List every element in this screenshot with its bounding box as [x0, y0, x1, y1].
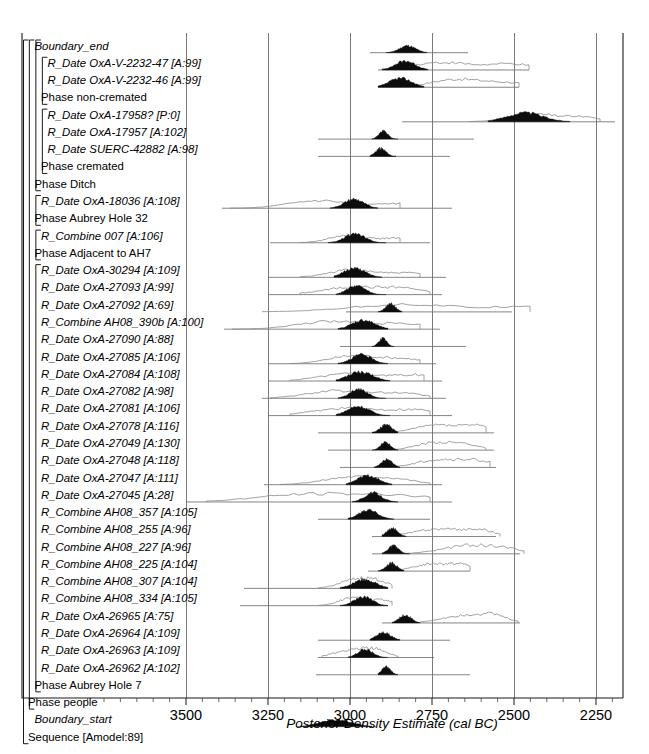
distribution-row [402, 112, 615, 122]
row-label: R_Date OxA-26962 [A:102] [41, 662, 181, 674]
distribution-row [318, 509, 430, 519]
tick-label-3250: 3250 [252, 707, 284, 723]
row-label: R_Date OxA-18036 [A:108] [41, 195, 181, 207]
row-label: R_Date OxA-27090 [A:88] [41, 333, 174, 345]
row-label: R_Date OxA-27082 [A:98] [41, 385, 174, 397]
distribution-row [240, 596, 392, 606]
distribution-row [222, 198, 452, 208]
row-label: R_Date OxA-27081 [A:106] [41, 402, 181, 414]
posterior-density [372, 337, 394, 346]
distribution-row [316, 666, 470, 675]
posterior-density [338, 388, 386, 398]
posterior-density [352, 492, 398, 502]
distribution-row [224, 319, 440, 329]
distribution-row [378, 77, 519, 87]
distribution-row [368, 562, 470, 571]
posterior-density [340, 596, 388, 606]
posterior-density [378, 77, 424, 87]
row-label: R_Date OxA-30294 [A:109] [41, 264, 181, 276]
row-label: R_Date OxA-26964 [A:109] [41, 627, 181, 639]
row-label: R_Date OxA-17957 [A:102] [48, 126, 188, 138]
distribution-row [318, 130, 474, 139]
prior-curve [230, 200, 400, 208]
distribution-row [268, 285, 442, 294]
posterior-density [386, 45, 427, 53]
posterior-density [330, 198, 378, 208]
row-label: R_Combine AH08_390b [A:100] [41, 316, 204, 328]
posterior-density [374, 458, 400, 467]
posterior-density [372, 130, 398, 139]
distribution-row [318, 147, 450, 156]
posterior-density [378, 666, 398, 675]
axis-title: Posterior Density Estimate (cal BC) [286, 716, 498, 731]
posterior-density [336, 406, 390, 416]
distribution-row [268, 267, 446, 277]
row-label: R_Date OxA-V-2232-46 [A:99] [48, 74, 202, 86]
bracket-sequence [24, 40, 29, 744]
prior-curve [396, 528, 500, 537]
row-label: R_Date OxA-26965 [A:75] [41, 610, 174, 622]
prior-curve [232, 321, 420, 330]
tick-label-2500: 2500 [498, 707, 530, 723]
row-label: Phase cremated [41, 160, 124, 172]
distribution-row [328, 441, 494, 450]
row-label: Phase Ditch [35, 178, 96, 190]
row-label: R_Date OxA-27092 [A:69] [41, 299, 174, 311]
posterior-density [336, 371, 390, 381]
distribution-row [318, 424, 494, 433]
distribution-row [340, 337, 466, 346]
prior-curve [380, 441, 486, 450]
posterior-density [346, 474, 392, 484]
posterior-density [372, 441, 398, 450]
row-label: Phase people [28, 696, 98, 708]
row-label: R_Date SUERC-42882 [A:98] [48, 143, 199, 155]
posterior-density [336, 285, 386, 294]
posterior-density [370, 147, 396, 156]
posterior-density [348, 509, 394, 519]
row-label: Phase non-cremated [41, 91, 147, 103]
distribution-row [268, 406, 452, 416]
prior-curve [206, 492, 430, 502]
distribution-row [372, 527, 500, 536]
distribution-row [372, 544, 524, 554]
row-label: R_Date OxA-27047 [A:111] [41, 472, 179, 484]
distribution-row [262, 388, 446, 398]
row-label: R_Combine AH08_255 [A:96] [41, 523, 191, 535]
posterior-density [340, 578, 388, 588]
row-label: R_Combine AH08_307 [A:104] [41, 575, 198, 587]
distribution-row [318, 647, 434, 658]
row-label: R_Combine AH08_227 [A:96] [41, 541, 191, 553]
prior-curve [388, 458, 490, 467]
axis-ticks [88, 698, 613, 705]
distribution-row [244, 577, 392, 589]
row-labels: Boundary_endR_Date OxA-V-2232-47 [A:99]R… [28, 40, 204, 743]
posterior-density [370, 632, 400, 641]
row-label: R_Date OxA-17958? [P:0] [48, 109, 181, 121]
distribution-row [370, 45, 468, 53]
tick-label-3500: 3500 [170, 707, 202, 723]
distributions [186, 45, 615, 727]
distribution-row [186, 492, 452, 502]
row-label: R_Date OxA-27084 [A:108] [41, 368, 181, 380]
posterior-density [382, 527, 406, 536]
row-label: Sequence [Amodel:89] [28, 731, 143, 743]
posterior-density [382, 545, 410, 554]
row-label: Phase Aubrey Hole 7 [35, 679, 142, 691]
gridlines [186, 33, 596, 698]
bracket-phase-people [29, 40, 34, 709]
row-label: R_Date OxA-26963 [A:109] [41, 644, 181, 656]
oxcal-plot-root: Boundary_endR_Date OxA-V-2232-47 [A:99]R… [0, 0, 649, 754]
row-label: Boundary_start [35, 713, 113, 725]
distribution-row [264, 474, 442, 484]
row-label: R_Date OxA-27093 [A:99] [41, 281, 174, 293]
row-label: R_Date OxA-27078 [A:116] [41, 420, 180, 432]
posterior-density [372, 424, 398, 433]
row-label: R_Combine AH08_357 [A:105] [41, 506, 198, 518]
prior-curve [396, 563, 470, 572]
row-label: R_Date OxA-V-2232-47 [A:99] [48, 57, 202, 69]
distribution-row [318, 632, 450, 641]
tick-label-2250: 2250 [580, 707, 612, 723]
distribution-row [268, 353, 436, 364]
distribution-row [268, 371, 442, 381]
row-label: R_Date OxA-27049 [A:130] [41, 437, 181, 449]
